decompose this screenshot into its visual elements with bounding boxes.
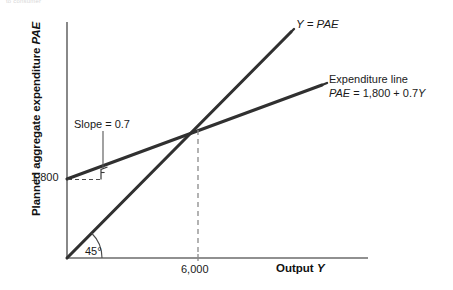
keynesian-cross-figure: to consumer Planned aggregate expenditur…: [0, 0, 453, 290]
angle-annotation-45deg: 45°: [85, 245, 102, 258]
identity-line-label: Y = PAE: [296, 18, 339, 32]
slope-annotation: Slope = 0.7: [74, 118, 130, 131]
expenditure-line-title: Expenditure line: [329, 73, 408, 85]
y-tick-label-1800: 1,800: [31, 171, 59, 184]
y-axis-label-text: Planned aggregate expenditure: [30, 45, 42, 216]
slope-right-angle-marker: [101, 167, 108, 180]
plot-area: [0, 0, 453, 290]
expenditure-line-label: Expenditure line PAE = 1,800 + 0.7Y: [329, 73, 425, 100]
expenditure-line-equation: PAE = 1,800 + 0.7Y: [329, 87, 425, 100]
expenditure-line: [67, 85, 322, 179]
equation-body: = 1,800 + 0.7: [350, 87, 418, 99]
expenditure-label-leader: [322, 83, 327, 85]
equation-pae-symbol: PAE: [329, 87, 350, 99]
x-tick-label-6000: 6,000: [181, 263, 209, 276]
y-axis-label: Planned aggregate expenditure PAE: [26, 9, 44, 229]
x-axis-label-italic: Y: [317, 262, 325, 274]
identity-line-45deg: [67, 32, 291, 258]
identity-label-leader: [291, 29, 294, 32]
equation-y-symbol: Y: [418, 87, 425, 99]
y-axis-label-italic: PAE: [30, 22, 42, 45]
x-axis-label-text: Output: [276, 262, 317, 274]
x-axis-label: Output Y: [276, 262, 325, 276]
